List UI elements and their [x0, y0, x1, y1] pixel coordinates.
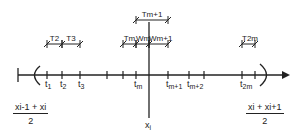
tick-label-t2: t2 [60, 80, 66, 91]
interval-label-wm: Wm [136, 35, 149, 43]
interval-label-t2: T2 [47, 35, 62, 43]
right-midpoint-label: xi + xi+1 2 [246, 102, 284, 126]
tick-label-tm: tm [134, 80, 142, 91]
tick-label-sub: 3 [81, 83, 85, 90]
tick-label-sub: m+2 [190, 83, 204, 90]
tick-label-sub: m+1 [169, 83, 183, 90]
interval-label-t3: T3 [62, 35, 80, 43]
tick-label-t3: t3 [78, 80, 84, 91]
tick-label-sub: m [137, 83, 143, 90]
left-midpoint-label: xi-1 + xi 2 [13, 102, 48, 126]
tick-label-tm+2: tm+2 [187, 80, 203, 91]
interval-label-wmplus1: Wm+1 [149, 35, 168, 43]
tick-label-t2m: t2m [240, 80, 252, 91]
right-midpoint-denominator: 2 [246, 114, 284, 126]
right-midpoint-numerator: xi + xi+1 [246, 102, 284, 114]
tick-label-sub: 2 [63, 83, 67, 90]
tick-label-tm+1: tm+1 [166, 80, 182, 91]
xi-label-sub: i [150, 124, 152, 131]
interval-brackets [44, 16, 258, 48]
interval-label-tm: Tm [123, 35, 136, 43]
interval-label-tmplus1: Tm+1 [136, 11, 168, 19]
xi-label: xi [145, 121, 151, 132]
tick-label-t1: t1 [45, 80, 51, 91]
tick-label-sub: 1 [48, 83, 52, 90]
interval-label-t2m: T2m [242, 35, 255, 43]
tick-label-sub: 2m [243, 83, 253, 90]
left-midpoint-numerator: xi-1 + xi [13, 102, 48, 114]
axis-arrow-icon [282, 71, 290, 79]
left-midpoint-denominator: 2 [13, 114, 48, 126]
